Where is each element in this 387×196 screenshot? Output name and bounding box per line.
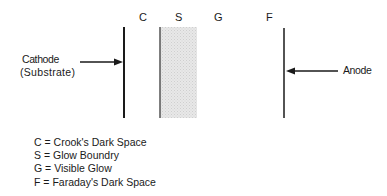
region-label-f: F: [266, 11, 273, 23]
glow-boundary-region: [160, 27, 197, 118]
cathode-label: Cathode (Substrate): [22, 53, 75, 79]
region-label-g: G: [214, 11, 223, 23]
legend-item-s: S = Glow Boundry: [34, 149, 156, 162]
legend-item-g: G = Visible Glow: [34, 162, 156, 175]
region-label-c: C: [139, 11, 147, 23]
legend-item-c: C = Crook's Dark Space: [34, 136, 156, 149]
legend-item-f: F = Faraday's Dark Space: [34, 176, 156, 189]
legend: C = Crook's Dark Space S = Glow Boundry …: [34, 136, 156, 189]
cathode-arrow-icon: [80, 59, 123, 66]
cathode-label-line2: (Substrate): [20, 66, 75, 79]
anode-arrow-icon: [286, 68, 338, 75]
region-label-s: S: [175, 11, 182, 23]
anode-label: Anode: [343, 64, 371, 77]
cathode-label-line1: Cathode: [22, 53, 75, 66]
